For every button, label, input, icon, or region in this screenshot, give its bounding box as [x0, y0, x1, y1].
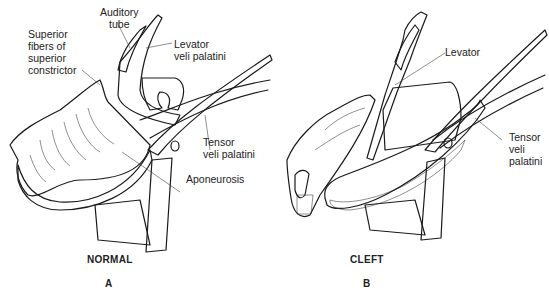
hamulus-muscle-hook [142, 78, 184, 110]
caption-cleft: CLEFT [350, 254, 384, 265]
label-tensor-veli-palatini: Tensor veli palatini [203, 136, 255, 160]
pterygoid-strap [146, 158, 172, 252]
hamulus [444, 138, 452, 148]
label-levator-veli-palatini: Levator veli palatini [174, 38, 226, 62]
levator-muscle [367, 12, 427, 160]
panel-cleft: Levator Tensor veli palatini CLEFT B [275, 0, 549, 296]
cleft-palate-illustration [275, 0, 549, 296]
label-superior-fibers: Superior fibers of superior constrictor [28, 28, 76, 76]
auditory-tube [395, 25, 419, 70]
pharyngeal-muscle-band [95, 200, 150, 245]
hamulus [171, 141, 179, 151]
label-levator: Levator [445, 46, 480, 58]
panel-normal: Auditory tube Superior fibers of superio… [0, 0, 275, 296]
label-auditory-tube: Auditory tube [100, 6, 139, 30]
panel-letter-b: B [363, 278, 370, 289]
levator-muscle-mass [383, 82, 461, 150]
left-half-edge [295, 170, 309, 197]
label-tensor-veli-palatini: Tensor veli palatini [509, 131, 542, 167]
panel-letter-a: A [105, 278, 112, 289]
caption-normal: NORMAL [87, 254, 133, 265]
label-aponeurosis: Aponeurosis [186, 173, 244, 185]
